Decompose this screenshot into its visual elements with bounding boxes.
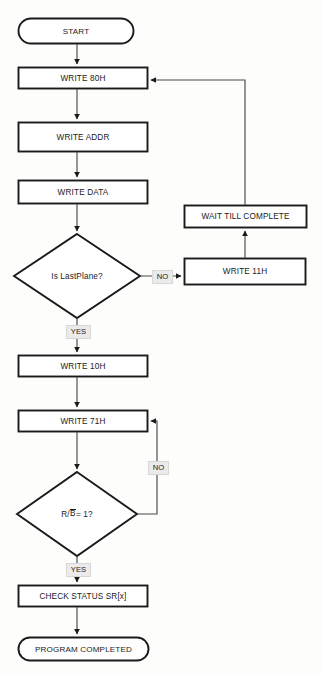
edge-label-lastplane-no: NO [152,270,173,284]
shape-rb-check [17,472,137,556]
edge-label-rb-no: NO [148,461,169,475]
shape-write-71h [19,411,148,432]
shape-write-addr [19,123,148,152]
shape-program-completed [19,638,149,661]
edge-wait-to-write80h-loop [151,80,245,205]
edge-label-rb-yes: YES [66,563,91,577]
shape-write-10h [19,356,148,377]
shape-check-status [19,586,148,607]
shape-start [19,19,134,44]
shape-wait-till-complete [185,206,307,228]
flowchart-canvas [0,0,322,674]
flowchart-diagram: START WRITE 80H WRITE ADDR WRITE DATA Is… [0,0,322,674]
shape-write-11h [185,259,306,285]
shape-write-data [19,181,148,204]
shape-write-80h [19,68,148,89]
shape-is-lastplane [14,234,140,318]
edge-label-lastplane-yes: YES [66,325,91,339]
